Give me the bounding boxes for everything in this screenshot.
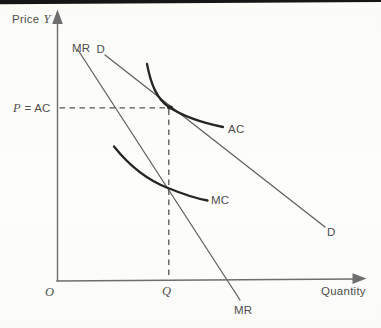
demand-top-label: D <box>97 43 106 55</box>
monopolistic-competition-diagram: PriceY MR D P= AC AC MC D MR O Q Quantit… <box>0 0 381 328</box>
demand-bottom-label: D <box>327 226 336 238</box>
origin-label: O <box>45 285 54 299</box>
mc-label: MC <box>211 194 229 206</box>
equilibrium-price-label: P= AC <box>12 101 51 115</box>
x-axis-label: Quantity <box>321 285 366 297</box>
equilibrium-quantity-label: Q <box>162 284 171 298</box>
mr-line <box>78 50 240 300</box>
page-top-rule <box>0 0 381 4</box>
tangency-point <box>167 105 173 109</box>
price-rest: = AC <box>24 102 50 114</box>
y-axis-arrowhead <box>52 10 63 25</box>
y-axis-label-word: Price <box>12 13 39 25</box>
scanned-economics-figure: PriceY MR D P= AC AC MC D MR O Q Quantit… <box>0 0 381 328</box>
y-axis-label-var: Y <box>43 12 52 26</box>
price-var: P <box>12 101 21 115</box>
y-axis-label: PriceY <box>12 12 52 26</box>
mr-bottom-label: MR <box>234 304 252 316</box>
x-axis-arrowhead <box>353 273 367 284</box>
ac-label: AC <box>228 123 244 135</box>
x-axis <box>57 279 354 281</box>
mc-curve <box>114 147 208 201</box>
mr-top-label: MR <box>72 42 90 54</box>
